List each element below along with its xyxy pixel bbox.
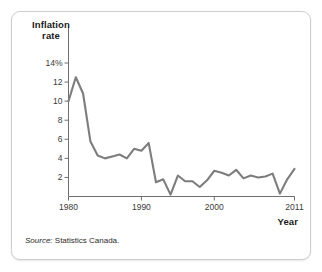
x-axis-label: Year: [258, 216, 298, 227]
source-prefix: Source:: [25, 236, 53, 245]
x-tick-label: 1980: [49, 203, 89, 212]
x-tick-label: 2000: [194, 203, 234, 212]
x-tick-label: 1990: [121, 203, 161, 212]
y-tick-label: 4: [37, 154, 63, 163]
x-axis-ticks: [69, 197, 295, 201]
y-tick-label: 2: [37, 173, 63, 182]
y-axis-ticks: [65, 63, 69, 177]
y-axis-label: Inflation rate: [22, 19, 80, 41]
source-note: Source: Statistics Canada.: [25, 236, 119, 245]
x-tick-label: 2011: [275, 203, 315, 212]
y-tick-label: 12: [37, 78, 63, 87]
y-tick-label: 6: [37, 135, 63, 144]
source-text: Statistics Canada.: [55, 236, 119, 245]
y-tick-label: 8: [37, 116, 63, 125]
y-tick-label: 14%: [37, 59, 63, 68]
inflation-rate-figure: Inflation rate Year 2468101214%198019902…: [0, 0, 322, 272]
y-tick-label: 10: [37, 97, 63, 106]
inflation-rate-line: [69, 77, 295, 194]
